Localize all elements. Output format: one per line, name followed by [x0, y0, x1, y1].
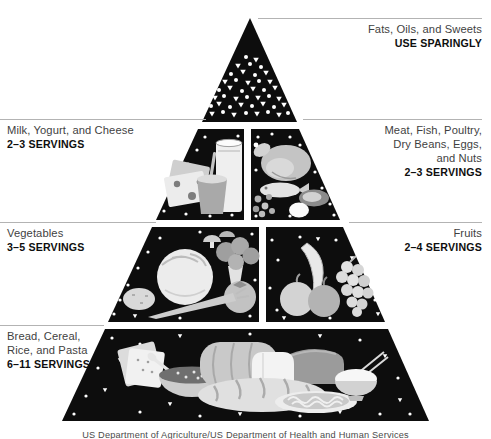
meat-group-section [251, 129, 340, 220]
group-name: Milk, Yogurt, and Cheese [7, 123, 134, 137]
source-caption: US Department of Agriculture/US Departme… [0, 429, 491, 439]
bread-pointer-line [0, 325, 104, 326]
group-name: Fats, Oils, and Sweets [368, 22, 482, 36]
vegetable-group-section [108, 227, 260, 322]
servings-count: USE SPARINGLY [368, 36, 482, 50]
group-name: Bread, Cereal, [7, 329, 90, 343]
meat-group-label: Meat, Fish, Poultry, Dry Beans, Eggs, an… [384, 123, 482, 179]
fats-pointer-line [258, 18, 482, 19]
pasta-plate-illustration [275, 391, 357, 413]
pyramid-graphic [0, 0, 491, 439]
group-name: Rice, and Pasta [7, 343, 90, 357]
potato-illustration [123, 288, 155, 310]
fats-oils-sweets-section [202, 18, 297, 122]
servings-count: 6–11 SERVINGS [7, 357, 90, 371]
meat-pointer-line [303, 119, 482, 120]
food-guide-pyramid-figure: Fats, Oils, and Sweets USE SPARINGLY Mil… [0, 0, 491, 439]
servings-count: 2–3 SERVINGS [384, 165, 482, 179]
servings-count: 3–5 SERVINGS [7, 240, 85, 254]
vegetables-pointer-line [0, 222, 156, 223]
lettuce-illustration [157, 249, 213, 305]
group-name: Meat, Fish, Poultry, [384, 123, 482, 137]
group-name: Fruits [404, 226, 482, 240]
bread-group-label: Bread, Cereal, Rice, and Pasta 6–11 SERV… [7, 329, 90, 371]
egg-illustration [289, 203, 309, 218]
servings-count: 2–3 SERVINGS [7, 137, 134, 151]
milk-group-section [156, 129, 244, 220]
milk-group-label: Milk, Yogurt, and Cheese 2–3 SERVINGS [7, 123, 134, 151]
group-name: Dry Beans, Eggs, [384, 137, 482, 151]
milk-pointer-line [0, 119, 206, 120]
fruits-group-label: Fruits 2–4 SERVINGS [404, 226, 482, 254]
fruit-group-section [266, 227, 385, 322]
vegetables-group-label: Vegetables 3–5 SERVINGS [7, 226, 85, 254]
fats-group-label: Fats, Oils, and Sweets USE SPARINGLY [368, 22, 482, 50]
servings-count: 2–4 SERVINGS [404, 240, 482, 254]
fruits-pointer-line [349, 222, 482, 223]
group-name: and Nuts [384, 151, 482, 165]
grain-group-section [62, 329, 429, 421]
group-name: Vegetables [7, 226, 85, 240]
